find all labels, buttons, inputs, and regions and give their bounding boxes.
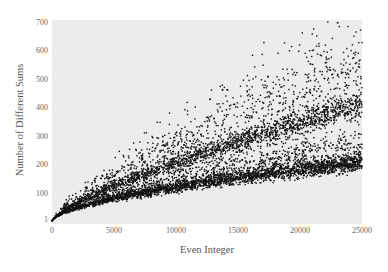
x-tick-5000: 5000 bbox=[94, 226, 134, 235]
x-tick-10000: 10000 bbox=[156, 226, 196, 235]
x-tick-15000: 15000 bbox=[218, 226, 258, 235]
x-tick-0: 0 bbox=[32, 226, 72, 235]
y-tick-700: 700 bbox=[18, 18, 48, 27]
x-axis-title: Even Integer bbox=[157, 244, 257, 255]
y-axis-title: Number of Different Sums bbox=[14, 40, 25, 200]
y-tick-1: 1 bbox=[18, 215, 48, 224]
x-tick-25000: 25000 bbox=[342, 226, 382, 235]
x-tick-20000: 20000 bbox=[280, 226, 320, 235]
